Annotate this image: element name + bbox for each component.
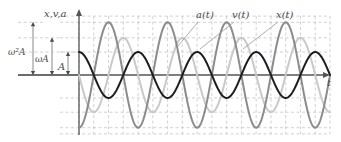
amplitude-arrowhead-up <box>31 22 35 26</box>
x-axis-label: t <box>327 77 332 88</box>
leader-line-xt <box>243 22 278 49</box>
shm-plot-canvas: ω²AωAA x(t)v(t)a(t)x,v,at <box>0 0 341 142</box>
text-labels-layer: x(t)v(t)a(t)x,v,at <box>44 8 332 88</box>
leader-lines-layer <box>178 22 278 49</box>
amplitude-markers-layer: ω²AωAA <box>8 22 79 75</box>
y-axis-label: x,v,a <box>44 8 66 19</box>
y-axis-arrowhead <box>76 9 82 16</box>
amplitude-label-1: ω²A <box>8 47 26 57</box>
curve-label-xt: x(t) <box>276 9 294 20</box>
curve-label-at: a(t) <box>196 9 214 20</box>
curve-label-vt: v(t) <box>232 9 250 20</box>
amplitude-label-2: ωA <box>35 54 49 64</box>
amplitude-label-3: A <box>57 61 65 72</box>
axes-layer <box>18 9 330 135</box>
shm-figure: ω²AωAA x(t)v(t)a(t)x,v,at <box>0 0 341 142</box>
amplitude-arrowhead-up <box>66 52 70 56</box>
amplitude-arrowhead-up <box>50 38 54 42</box>
